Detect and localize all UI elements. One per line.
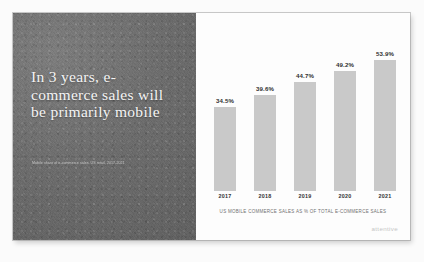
bar-value-label: 53.9% — [376, 50, 394, 57]
bar-value-label: 39.6% — [256, 85, 274, 92]
bar-slot: 34.5% — [214, 35, 236, 191]
slide: In 3 years, e-commerce sales will be pri… — [13, 13, 410, 240]
x-axis-label: 2020 — [334, 193, 356, 199]
bar-value-label: 34.5% — [216, 97, 234, 104]
attentive-logo: attentive — [371, 225, 398, 232]
bar — [374, 60, 396, 191]
bar-slot: 53.9% — [374, 35, 396, 191]
bar-slot: 39.6% — [254, 35, 276, 191]
bar — [214, 107, 236, 191]
x-axis-label: 2019 — [294, 193, 316, 199]
slide-right-chart-panel: 34.5%39.6%44.7%49.2%53.9% 20172018201920… — [196, 13, 410, 240]
bar-chart-x-axis: 20172018201920202021 — [210, 193, 400, 199]
bar-chart: 34.5%39.6%44.7%49.2%53.9% — [210, 35, 400, 191]
slide-headline: In 3 years, e-commerce sales will be pri… — [31, 68, 181, 121]
slide-source-caption: Mobile share of e-commerce sales, US ret… — [32, 161, 160, 166]
bar-slot: 49.2% — [334, 35, 356, 191]
page-background: In 3 years, e-commerce sales will be pri… — [0, 0, 424, 262]
x-axis-label: 2018 — [254, 193, 276, 199]
bar-slot: 44.7% — [294, 35, 316, 191]
x-axis-label: 2021 — [374, 193, 396, 199]
bar-value-label: 49.2% — [336, 61, 354, 68]
bar-chart-bars: 34.5%39.6%44.7%49.2%53.9% — [210, 35, 400, 191]
slide-left-photo-panel: In 3 years, e-commerce sales will be pri… — [13, 13, 196, 240]
bar-chart-caption: US MOBILE COMMERCE SALES AS % OF TOTAL E… — [196, 209, 410, 214]
x-axis-label: 2017 — [214, 193, 236, 199]
bar — [294, 82, 316, 191]
bar-value-label: 44.7% — [296, 72, 314, 79]
bar — [334, 71, 356, 191]
bar — [254, 95, 276, 191]
